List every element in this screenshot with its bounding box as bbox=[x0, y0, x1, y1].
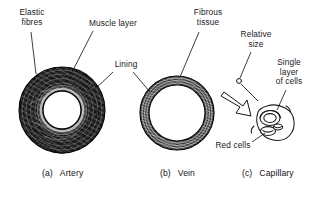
label-single-layer: Single layer of cells bbox=[265, 58, 313, 87]
vein-cross-section bbox=[140, 76, 214, 150]
leader-muscle-layer bbox=[70, 31, 93, 76]
leader-lining-vein bbox=[133, 72, 150, 92]
label-relative-size: Relative size bbox=[233, 30, 279, 49]
caption-name-artery: Artery bbox=[60, 168, 84, 178]
caption-tag-vein: (b) bbox=[160, 168, 171, 178]
caption-artery: (a)Artery bbox=[42, 168, 83, 178]
caption-name-capillary: Capillary bbox=[259, 168, 293, 178]
caption-name-vein: Vein bbox=[178, 168, 195, 178]
magnification-arrow bbox=[221, 92, 251, 116]
label-red-cells: Red cells bbox=[208, 141, 258, 151]
label-muscle-layer: Muscle layer bbox=[78, 19, 148, 29]
label-elastic-fibres: Elastic fibres bbox=[8, 8, 56, 27]
caption-tag-capillary: (c) bbox=[242, 168, 252, 178]
label-lining: Lining bbox=[108, 60, 144, 70]
capillary-cross-section bbox=[251, 105, 294, 141]
leader-fibrous-tissue bbox=[180, 32, 199, 77]
leader-elastic-fibres bbox=[31, 32, 36, 74]
relative-size-marker bbox=[237, 79, 258, 101]
artery-cross-section bbox=[19, 67, 105, 154]
caption-capillary: (c)Capillary bbox=[242, 168, 294, 178]
caption-vein: (b)Vein bbox=[160, 168, 195, 178]
leader-relative-size bbox=[240, 52, 251, 78]
label-fibrous-tissue: Fibrous tissue bbox=[184, 8, 232, 27]
caption-tag-artery: (a) bbox=[42, 168, 53, 178]
